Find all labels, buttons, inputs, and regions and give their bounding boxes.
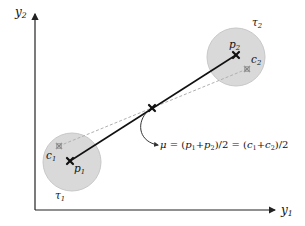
tau2-label: τ2	[252, 17, 262, 30]
diagram-svg	[0, 0, 305, 226]
p1-label: p1	[74, 163, 85, 176]
c2-label: c2	[251, 54, 261, 67]
p2-label: p2	[229, 39, 240, 52]
y1-axis-label: y1	[281, 204, 293, 218]
y2-axis-label: y2	[15, 6, 27, 20]
tau1-label: τ1	[55, 190, 65, 203]
c1-label: c1	[46, 150, 56, 163]
midpoint-formula: μ = (p1+p2)/2 = (c1+c2)/2	[160, 140, 288, 151]
midpoint-annotation-arrow	[141, 113, 158, 145]
diagram-canvas: y2 y1 τ2 τ1 p2 c2 c1 p1 μ = (p1+p2)/2 = …	[0, 0, 305, 226]
